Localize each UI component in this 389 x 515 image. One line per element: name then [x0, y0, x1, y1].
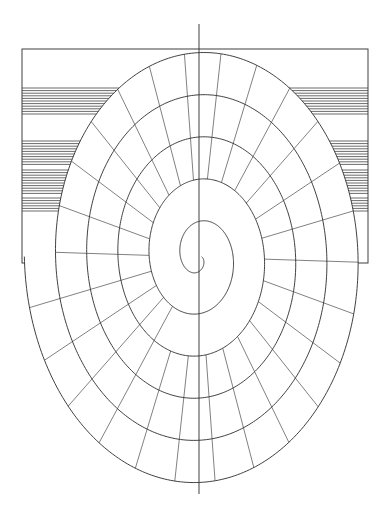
spiral-interior-fill: [24, 53, 358, 483]
spiral-layer: [24, 24, 358, 494]
drawing-stage: [0, 0, 389, 515]
spiral-white-fill: [24, 53, 358, 483]
spiral-figure: [0, 0, 389, 515]
